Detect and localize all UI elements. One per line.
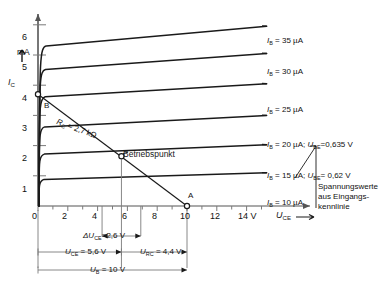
- curve-label-35ua: IB = 35 µA: [267, 37, 303, 45]
- marker-point-b: [35, 92, 40, 97]
- x-tick-label-10: 10: [180, 212, 190, 221]
- y-tick-label-3: 3: [22, 124, 27, 133]
- y-axis-unit: mA: [17, 48, 30, 57]
- x-tick-label-2: 2: [62, 212, 67, 221]
- x-tick-label-14: 14 V: [238, 212, 257, 221]
- side-note-line-2: aus Eingangs-: [318, 192, 369, 201]
- curve-label-10ua: IB = 10 µA: [267, 199, 303, 207]
- dimension-label-uce: UCE = 5,6 V: [65, 248, 106, 256]
- curve-label-20ua: IB = 20 µA; UBE=0,635 V: [267, 141, 353, 149]
- x-tick-label-4: 4: [92, 212, 97, 221]
- side-note-line-3: kennlinie: [318, 202, 350, 211]
- point-label-a: A: [188, 192, 193, 200]
- marker-point-a: [184, 203, 189, 208]
- y-tick-label-6: 6: [22, 33, 27, 42]
- x-tick-label-0: 0: [32, 212, 37, 221]
- y-tick-label-2: 2: [22, 154, 27, 163]
- x-tick-label-8: 8: [152, 212, 157, 221]
- curve-label-15ua: IB = 15 µA; UBE= 0,62 V: [267, 172, 351, 180]
- curve-label-30ua: IB = 30 µA: [267, 68, 303, 76]
- x-tick-label-12: 12: [210, 212, 220, 221]
- y-tick-label-1: 1: [22, 185, 27, 194]
- dimension-label-urc: URC = 4,4 V: [140, 248, 181, 256]
- y-tick-label-4: 4: [22, 94, 27, 103]
- y-axis-label: IC: [8, 78, 15, 87]
- dimension-label-delta-uce: ΔUCE=2,6 V: [83, 232, 125, 240]
- dimension-label-ub: UB = 10 V: [90, 266, 125, 274]
- y-tick-label-5: 5: [22, 63, 27, 72]
- operating-point-label: Betriebspunkt: [123, 150, 175, 159]
- side-note-line-1: Spannungswerte: [318, 182, 378, 191]
- point-label-b: B: [44, 102, 49, 110]
- curve-label-25ua: IB = 25 µA: [267, 106, 303, 114]
- x-axis-label: UCE: [276, 211, 291, 220]
- x-tick-label-6: 6: [122, 212, 127, 221]
- characteristic-curves: [39, 26, 267, 206]
